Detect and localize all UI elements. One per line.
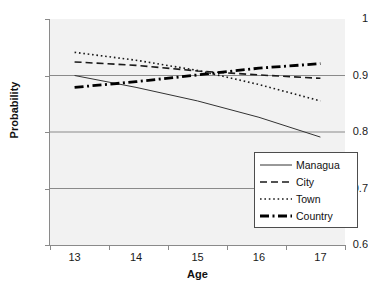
x-tick-mark [168, 246, 169, 250]
legend-item-managua[interactable]: Managua [255, 156, 357, 173]
y-tick-label: 0.9 [324, 70, 368, 81]
x-tick-mark [345, 246, 346, 250]
x-tick-mark [50, 246, 51, 250]
legend-label: City [296, 176, 314, 188]
chart-container: 10.90.80.70.6 1314151617 Probability Age… [0, 0, 368, 293]
x-tick-label: 13 [55, 251, 95, 263]
y-tick-label: 0.8 [324, 126, 368, 137]
y-axis-line [49, 19, 50, 246]
x-tick-label: 17 [300, 251, 340, 263]
x-axis-line [49, 245, 346, 246]
legend-item-country[interactable]: Country [255, 207, 357, 224]
legend-label: Town [296, 193, 321, 205]
legend-swatch-town [259, 192, 293, 206]
legend-swatch-country [259, 209, 293, 223]
y-tick-mark [45, 245, 49, 246]
x-tick-label: 14 [116, 251, 156, 263]
y-tick-mark [45, 189, 49, 190]
y-tick-mark [45, 132, 49, 133]
x-tick-mark [227, 246, 228, 250]
legend-label: Country [296, 210, 333, 222]
x-axis-title: Age [50, 268, 345, 280]
x-tick-mark [286, 246, 287, 250]
legend-swatch-city [259, 175, 293, 189]
legend-item-city[interactable]: City [255, 173, 357, 190]
legend-item-town[interactable]: Town [255, 190, 357, 207]
y-tick-label: 0.6 [324, 239, 368, 250]
y-tick-mark [45, 19, 49, 20]
y-tick-label: 1 [324, 13, 368, 24]
y-tick-mark [45, 76, 49, 77]
y-axis-title: Probability [8, 60, 20, 160]
legend-label: Managua [296, 159, 340, 171]
x-tick-label: 15 [178, 251, 218, 263]
x-tick-label: 16 [239, 251, 279, 263]
legend-swatch-managua [259, 158, 293, 172]
x-tick-mark [109, 246, 110, 250]
legend: ManaguaCityTownCountry [254, 152, 358, 228]
